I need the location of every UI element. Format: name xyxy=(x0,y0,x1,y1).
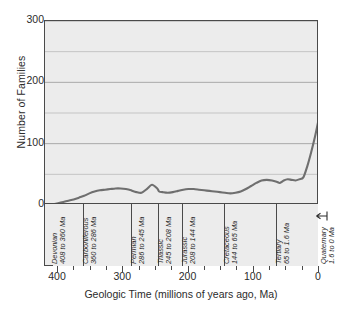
period-label-triassic: Triassic245 to 208 Ma xyxy=(157,202,171,264)
period-range-tertiary: 65 to 1.6 Ma xyxy=(282,202,290,264)
period-range-triassic: 245 to 208 Ma xyxy=(165,202,173,264)
y-tick-label-100: 100 xyxy=(10,136,44,148)
period-label-jurassic: Jurassic208 to 144 Ma xyxy=(181,202,195,264)
period-band-carboniferous: Carboniferous360 to 286 Ma xyxy=(84,204,132,266)
period-band-quaternary: Quaternary 1.6 to 0 Ma xyxy=(322,204,346,266)
x-tick-label-100: 100 xyxy=(238,270,268,282)
period-range-cretaceous: 144 to 65 Ma xyxy=(231,202,239,264)
y-axis-title: Number of Families xyxy=(15,32,27,172)
y-tick-label-0: 0 xyxy=(10,197,44,209)
family-count-line xyxy=(53,119,318,204)
geologic-period-bands: Devonian408 to 360 MaCarboniferous360 to… xyxy=(44,204,318,266)
x-tick-mark xyxy=(220,266,221,270)
x-tick-mark xyxy=(90,266,91,270)
period-label-devonian: Devonian408 to 360 Ma xyxy=(51,202,65,264)
period-band-cretaceous: Cretaceous144 to 65 Ma xyxy=(225,204,277,266)
period-range-jurassic: 208 to 144 Ma xyxy=(189,202,197,264)
x-tick-mark xyxy=(269,266,270,270)
period-label-quaternary: Quaternary 1.6 to 0 Ma xyxy=(320,202,334,264)
period-label-tertiary: Tertiary65 to 1.6 Ma xyxy=(275,202,289,264)
geologic-diversity-chart: Number of Families 300 200 100 0 Devonia… xyxy=(0,0,348,309)
diversity-curve-svg xyxy=(45,21,318,204)
period-range-devonian: 408 to 360 Ma xyxy=(58,202,66,264)
period-band-jurassic: Jurassic208 to 144 Ma xyxy=(183,204,225,266)
period-range-permian: 286 to 245 Ma xyxy=(138,202,146,264)
plot-area xyxy=(44,20,318,204)
gridlines xyxy=(45,21,318,174)
x-tick-label-200: 200 xyxy=(173,270,203,282)
x-tick-label-0: 0 xyxy=(303,270,333,282)
period-label-cretaceous: Cretaceous144 to 65 Ma xyxy=(223,202,237,264)
x-tick-mark xyxy=(73,266,74,270)
x-tick-mark xyxy=(155,266,156,270)
x-tick-mark xyxy=(204,266,205,270)
x-tick-label-400: 400 xyxy=(42,270,72,282)
period-band-tertiary: Tertiary65 to 1.6 Ma xyxy=(277,204,318,266)
period-range-quaternary: 1.6 to 0 Ma xyxy=(328,202,336,264)
period-band-devonian: Devonian408 to 360 Ma xyxy=(53,204,84,266)
x-axis-title: Geologic Time (millions of years ago, Ma… xyxy=(44,288,318,300)
period-label-carboniferous: Carboniferous360 to 286 Ma xyxy=(82,202,96,264)
period-range-carboniferous: 360 to 286 Ma xyxy=(90,202,98,264)
y-tick-label-300: 300 xyxy=(10,13,44,25)
x-tick-mark xyxy=(285,266,286,270)
y-tick-label-200: 200 xyxy=(10,74,44,86)
x-tick-label-300: 300 xyxy=(107,270,137,282)
period-label-permian: Permian286 to 245 Ma xyxy=(130,202,144,264)
x-tick-mark xyxy=(139,266,140,270)
